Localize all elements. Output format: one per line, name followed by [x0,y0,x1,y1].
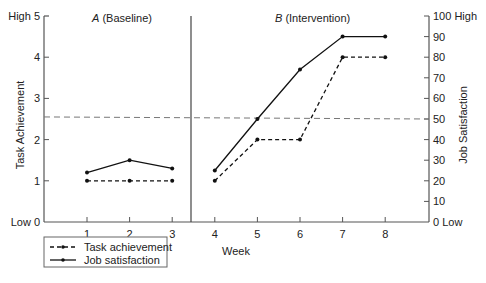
data-point [341,55,345,59]
right-tick-label: 30 [433,154,445,166]
right-tick-label: 10 [433,195,445,207]
tick-labels: Low 01234High 50 Low10203040506070809010… [8,10,477,240]
left-tick-label: Low 0 [11,216,40,228]
right-tick-label: 20 [433,175,445,187]
legend: Task achievement Job satisfaction [44,237,172,267]
phase-a-label: A (Baseline) [91,12,152,24]
left-tick-label: High 5 [8,10,40,22]
data-point [128,179,132,183]
data-point [298,68,302,72]
data-point [255,138,259,142]
data-point [298,138,302,142]
x-tick-label: 3 [169,228,175,240]
reference-line [44,117,429,119]
left-tick-label: 2 [34,134,40,146]
right-tick-label: 40 [433,134,445,146]
data-point [170,166,174,170]
left-tick-label: 4 [34,51,40,63]
right-tick-label: 60 [433,92,445,104]
series [85,35,387,183]
x-tick-label: 6 [297,228,303,240]
right-tick-label: 0 Low [433,216,462,228]
right-y-axis-title: Job Satisfaction [457,86,469,164]
data-point [213,169,217,173]
right-tick-label: 80 [433,51,445,63]
line-chart: Low 01234High 50 Low10203040506070809010… [0,0,486,283]
data-point [85,171,89,175]
data-point [85,179,89,183]
right-tick-label: 50 [433,113,445,125]
data-point [128,158,132,162]
data-point [170,179,174,183]
data-point [213,179,217,183]
legend-task-label: Task achievement [84,241,172,253]
x-tick-label: 8 [382,228,388,240]
data-point [383,55,387,59]
left-y-axis-title: Task Achievement [14,81,26,170]
left-tick-label: 3 [34,92,40,104]
data-point [255,117,259,121]
axes [44,16,429,222]
x-axis-title: Week [222,245,250,257]
right-tick-label: 70 [433,72,445,84]
legend-job-marker [61,258,65,262]
x-tick-label: 4 [212,228,218,240]
x-tick-label: 7 [340,228,346,240]
right-tick-label: 100 High [433,10,477,22]
x-tick-label: 5 [254,228,260,240]
right-tick-label: 90 [433,31,445,43]
data-point [383,35,387,39]
legend-job-label: Job satisfaction [84,254,160,266]
series-task-achievement [85,55,387,183]
data-point [341,35,345,39]
left-tick-label: 1 [34,175,40,187]
legend-task-marker [61,245,65,249]
ticks [44,16,429,222]
phase-b-label: B (Intervention) [275,12,350,24]
